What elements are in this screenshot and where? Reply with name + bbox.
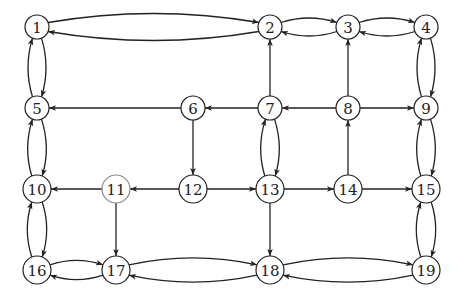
node-label: 2 [265, 19, 275, 37]
edge-18-to-19 [283, 258, 413, 265]
node-label: 15 [416, 181, 435, 199]
edge-4-to-3 [359, 32, 415, 37]
edge-16-to-17 [50, 260, 103, 265]
node-4: 4 [414, 15, 438, 39]
node-13: 13 [256, 175, 284, 203]
node-label: 16 [27, 262, 46, 280]
node-label: 4 [421, 19, 431, 37]
edge-1-to-5 [42, 38, 47, 97]
edge-17-to-16 [50, 275, 103, 280]
node-2: 2 [258, 15, 282, 39]
directed-graph: 12345678910111213141516171819 [0, 0, 464, 300]
node-label: 17 [106, 262, 125, 280]
node-label: 6 [188, 100, 198, 118]
edge-19-to-15 [416, 202, 421, 257]
edge-16-to-10 [27, 202, 32, 257]
edge-10-to-16 [42, 202, 47, 257]
node-label: 18 [260, 262, 279, 280]
edge-1-to-2 [48, 14, 259, 23]
node-17: 17 [102, 256, 130, 284]
node-label: 9 [421, 100, 431, 118]
node-label: 7 [265, 100, 275, 118]
edge-5-to-10 [42, 119, 47, 176]
node-1: 1 [25, 15, 49, 39]
edge-3-to-2 [281, 32, 337, 37]
edge-15-to-19 [431, 202, 436, 257]
edge-15-to-9 [417, 119, 422, 176]
node-15: 15 [412, 175, 440, 203]
edge-7-to-13 [275, 119, 280, 176]
node-3: 3 [336, 15, 360, 39]
node-label: 3 [343, 19, 353, 37]
node-19: 19 [412, 256, 440, 284]
edge-13-to-7 [261, 119, 266, 176]
node-label: 19 [416, 262, 435, 280]
edge-2-to-1 [48, 32, 259, 41]
node-12: 12 [179, 175, 207, 203]
node-8: 8 [336, 96, 360, 120]
node-label: 8 [343, 100, 353, 118]
node-14: 14 [334, 175, 362, 203]
node-label: 1 [32, 19, 42, 37]
node-11: 11 [102, 175, 130, 203]
edge-18-to-17 [129, 275, 257, 282]
node-7: 7 [258, 96, 282, 120]
edge-4-to-9 [431, 38, 436, 97]
node-18: 18 [256, 256, 284, 284]
node-16: 16 [23, 256, 51, 284]
node-label: 14 [338, 181, 357, 199]
edge-19-to-18 [283, 275, 413, 282]
edge-9-to-15 [431, 119, 436, 176]
edge-17-to-18 [129, 258, 257, 265]
edge-9-to-4 [417, 38, 422, 97]
node-label: 5 [32, 100, 42, 118]
nodes-layer: 12345678910111213141516171819 [23, 15, 440, 284]
edges-layer [27, 14, 435, 283]
node-label: 13 [260, 181, 279, 199]
node-label: 12 [183, 181, 202, 199]
edge-3-to-4 [359, 18, 415, 23]
node-label: 11 [106, 181, 125, 199]
node-5: 5 [25, 96, 49, 120]
node-9: 9 [414, 96, 438, 120]
node-10: 10 [23, 175, 51, 203]
node-label: 10 [27, 181, 46, 199]
node-6: 6 [181, 96, 205, 120]
edge-10-to-5 [28, 119, 33, 176]
edge-2-to-3 [281, 18, 337, 23]
edge-5-to-1 [28, 38, 33, 97]
